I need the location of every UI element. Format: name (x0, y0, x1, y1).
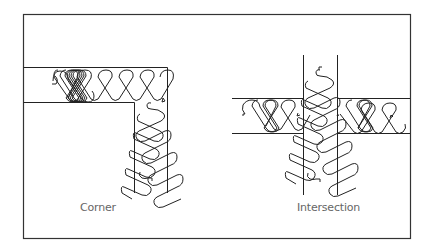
corner-vertical-batt (121, 98, 183, 208)
intersection-right-batt (337, 100, 406, 134)
intersection-left-batt (242, 100, 310, 132)
intersection-vertical-batt (285, 67, 358, 197)
corner-label: Corner (80, 201, 116, 214)
corner-horizontal-batt (52, 70, 173, 102)
intersection-label: Intersection (297, 201, 360, 214)
corner-detail (24, 68, 184, 208)
intersection-detail (232, 55, 410, 197)
diagram-canvas (0, 0, 431, 246)
